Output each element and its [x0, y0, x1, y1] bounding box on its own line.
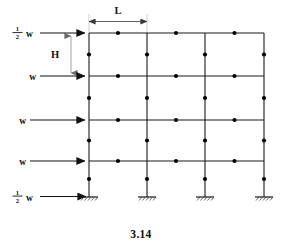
- lateral-load-roof: 1 2 w: [13, 25, 86, 40]
- fixed-support: [80, 197, 98, 201]
- frame-beams: [89, 33, 264, 161]
- load-label-base-symbol: w: [26, 193, 33, 203]
- hinge-dot: [87, 96, 91, 100]
- frame-diagram: L H 1 2 w w w: [0, 0, 282, 250]
- hinge-dot: [116, 74, 120, 78]
- hinge-dot: [232, 31, 236, 35]
- load-label-roof: 1 2 w: [13, 25, 34, 40]
- hinge-dot: [262, 177, 266, 181]
- hinge-dot: [174, 118, 178, 122]
- load-label-base-denominator: 2: [16, 197, 20, 204]
- hinge-dot: [145, 177, 149, 181]
- hinge-dot: [232, 118, 236, 122]
- hinge-dot: [174, 159, 178, 163]
- hinge-dot: [174, 74, 178, 78]
- load-label-base: 1 2 w: [13, 189, 34, 204]
- frame-diagram-svg: L H 1 2 w w w: [0, 0, 282, 250]
- fixed-supports: [80, 197, 273, 201]
- fixed-support: [196, 197, 214, 201]
- fixed-support: [255, 197, 273, 201]
- lateral-load-level-2: w: [19, 116, 85, 126]
- hinge-dot: [87, 52, 91, 56]
- load-label-roof-numerator: 1: [16, 25, 19, 32]
- fixed-support: [138, 197, 156, 201]
- bay-dimension-label: L: [114, 5, 121, 16]
- lateral-load-level-1: w: [19, 157, 85, 167]
- hinge-dot: [87, 138, 91, 142]
- lateral-load-level-3: w: [29, 72, 85, 82]
- hinge-dot: [203, 52, 207, 56]
- story-height-label: H: [51, 49, 59, 60]
- story-height-dimension-group: H: [51, 36, 71, 73]
- bay-dimension-group: L: [89, 5, 147, 33]
- hinge-dot: [203, 177, 207, 181]
- load-label-roof-denominator: 2: [16, 33, 20, 40]
- hinge-dot: [232, 159, 236, 163]
- lateral-load-base: 1 2 w: [13, 189, 87, 204]
- hinge-dot: [203, 96, 207, 100]
- load-label-roof-symbol: w: [26, 29, 33, 39]
- hinge-dot: [203, 138, 207, 142]
- figure-caption: 3.14: [0, 228, 282, 240]
- hinge-dot: [145, 138, 149, 142]
- hinge-dot: [87, 177, 91, 181]
- load-label-level-3: w: [29, 72, 36, 82]
- hinge-dot: [262, 138, 266, 142]
- hinge-dot: [145, 52, 149, 56]
- frame-columns: [89, 33, 264, 197]
- hinge-dot: [174, 31, 178, 35]
- hinge-dot: [116, 31, 120, 35]
- hinge-dot: [116, 159, 120, 163]
- hinge-dot: [262, 96, 266, 100]
- hinge-dot: [262, 52, 266, 56]
- load-label-level-1: w: [19, 157, 26, 167]
- load-label-base-numerator: 1: [16, 189, 19, 196]
- load-label-level-2: w: [19, 116, 26, 126]
- hinge-dot: [232, 74, 236, 78]
- hinge-dot: [116, 118, 120, 122]
- beam-hinge-dots: [116, 31, 237, 163]
- hinge-dot: [145, 96, 149, 100]
